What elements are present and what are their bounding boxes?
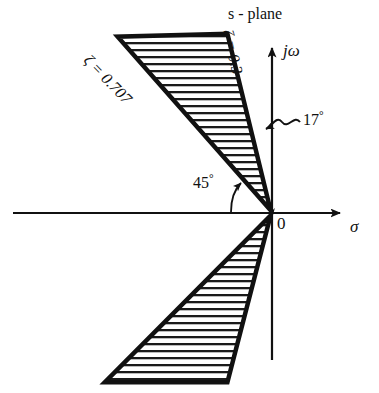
angle-45-value: 45 — [193, 174, 209, 191]
s-plane-root-locus-figure: s - plane jω σ 0 17° 45° ζ = 0.707 ζ = 0… — [0, 0, 379, 393]
real-axis-label: σ — [350, 218, 358, 235]
angle-45-degrees-label: 45° — [193, 175, 214, 191]
angle-17-degrees-label: 17° — [303, 112, 324, 128]
s-plane-diagram-canvas — [0, 0, 379, 393]
lower-hatched-region — [103, 213, 272, 383]
degree-symbol-45: ° — [209, 172, 214, 184]
plane-title-label: s - plane — [228, 6, 282, 22]
imaginary-axis-label: jω — [283, 42, 300, 59]
angle-45-leader-arc — [231, 183, 241, 212]
origin-label: 0 — [277, 215, 286, 232]
degree-symbol-17: ° — [319, 109, 324, 121]
angle-17-value: 17 — [303, 111, 319, 128]
